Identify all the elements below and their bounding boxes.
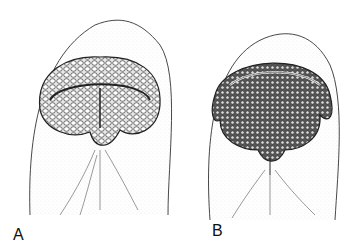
panel-b-drawing (209, 34, 340, 220)
panel-label-a: A (13, 226, 24, 244)
panel-label-b: B (212, 222, 223, 240)
figure-illustration (0, 0, 349, 249)
panel-a-drawing (30, 20, 172, 215)
